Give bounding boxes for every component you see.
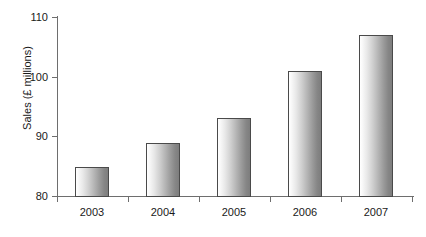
x-tick-5 bbox=[412, 197, 413, 202]
x-tick-label-2006: 2006 bbox=[270, 206, 340, 218]
y-axis-title: Sales (£ millions) bbox=[18, 0, 36, 178]
y-tick-label-90: 90 bbox=[8, 131, 48, 142]
y-tick-label-80: 80 bbox=[8, 191, 48, 202]
y-tick-90 bbox=[52, 136, 58, 137]
x-tick-0 bbox=[57, 197, 58, 202]
x-tick-3 bbox=[270, 197, 271, 202]
x-tick-4 bbox=[341, 197, 342, 202]
y-tick-110 bbox=[52, 17, 58, 18]
x-tick-label-2005: 2005 bbox=[199, 206, 269, 218]
y-tick-label-100: 100 bbox=[8, 72, 48, 83]
bar-chart: Sales (£ millions) 110 100 90 80 2003 20… bbox=[0, 0, 426, 237]
y-tick-100 bbox=[52, 77, 58, 78]
y-axis-line bbox=[57, 16, 58, 197]
y-tick-label-110: 110 bbox=[8, 12, 48, 23]
x-tick-label-2004: 2004 bbox=[128, 206, 198, 218]
x-tick-label-2003: 2003 bbox=[57, 206, 127, 218]
bar-2005 bbox=[217, 118, 251, 197]
bar-2007 bbox=[359, 35, 393, 197]
x-tick-label-2007: 2007 bbox=[341, 206, 411, 218]
bar-2006 bbox=[288, 71, 322, 197]
x-tick-2 bbox=[199, 197, 200, 202]
bar-2004 bbox=[146, 143, 180, 197]
bar-2003 bbox=[75, 167, 109, 197]
x-tick-1 bbox=[128, 197, 129, 202]
